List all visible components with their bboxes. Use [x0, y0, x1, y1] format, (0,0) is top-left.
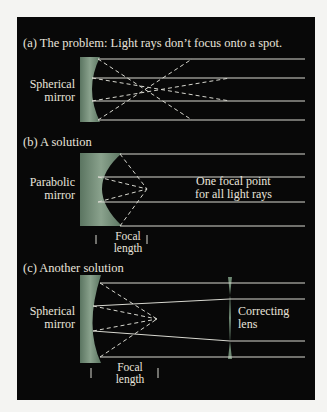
- lens-label-1: Correcting: [238, 304, 289, 318]
- rays-c: [93, 283, 305, 357]
- spherical-mirror-c: [80, 275, 101, 363]
- focal-length-label-b-2: length: [114, 242, 143, 255]
- lens-label-2: lens: [238, 317, 258, 331]
- focal-note-1: One focal point: [196, 174, 271, 188]
- mirror-label-b-1: Parabolic: [30, 175, 75, 189]
- mirror-label-a-2: mirror: [44, 90, 75, 104]
- correcting-lens: [228, 277, 232, 359]
- rays-a: [92, 59, 305, 120]
- panel-a: (a) The problem: Light rays don’t focus …: [23, 36, 305, 122]
- parabolic-mirror: [80, 153, 122, 226]
- mirror-label-a-1: Spherical: [30, 77, 76, 91]
- panel-b-title: (b) A solution: [23, 135, 93, 149]
- focal-length-label-b-1: Focal: [115, 230, 141, 242]
- panel-b: (b) A solution Parabolic mirror One foca…: [23, 135, 305, 255]
- focal-note-2: for all light rays: [195, 187, 272, 201]
- mirror-label-c-2: mirror: [44, 317, 75, 331]
- panel-c: (c) Another solution Spherical mirror Co…: [23, 261, 305, 386]
- mirror-label-b-2: mirror: [44, 188, 75, 202]
- mirror-label-c-1: Spherical: [30, 304, 76, 318]
- focal-length-label-c-2: length: [116, 373, 145, 386]
- panel-a-title: (a) The problem: Light rays don’t focus …: [23, 36, 282, 50]
- spherical-mirror-a: [80, 57, 100, 122]
- panel-c-title: (c) Another solution: [23, 261, 124, 275]
- mirror-diagram: (a) The problem: Light rays don’t focus …: [0, 0, 327, 412]
- focal-length-label-c-1: Focal: [117, 361, 143, 373]
